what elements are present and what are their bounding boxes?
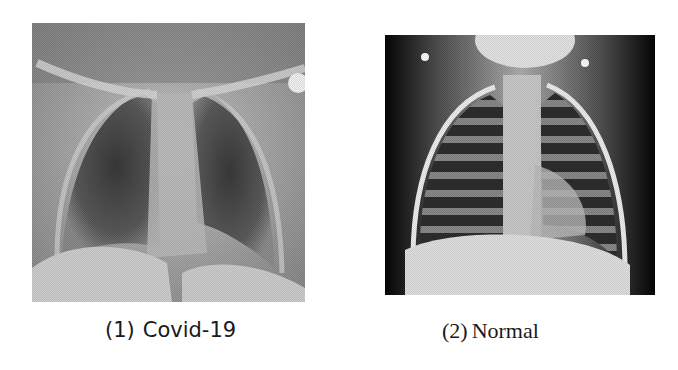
caption-label: Normal: [472, 318, 539, 343]
chest-xray-covid-graphic: [32, 23, 305, 302]
caption-covid19: (1)Covid-19: [105, 318, 236, 342]
xray-image-normal: [385, 35, 655, 295]
chest-xray-normal-graphic: [385, 35, 655, 295]
xray-image-covid19: [32, 23, 305, 302]
caption-number: (1): [105, 318, 135, 342]
caption-normal: (2)Normal: [442, 318, 539, 344]
caption-number: (2): [442, 318, 468, 343]
caption-label: Covid-19: [143, 318, 236, 342]
